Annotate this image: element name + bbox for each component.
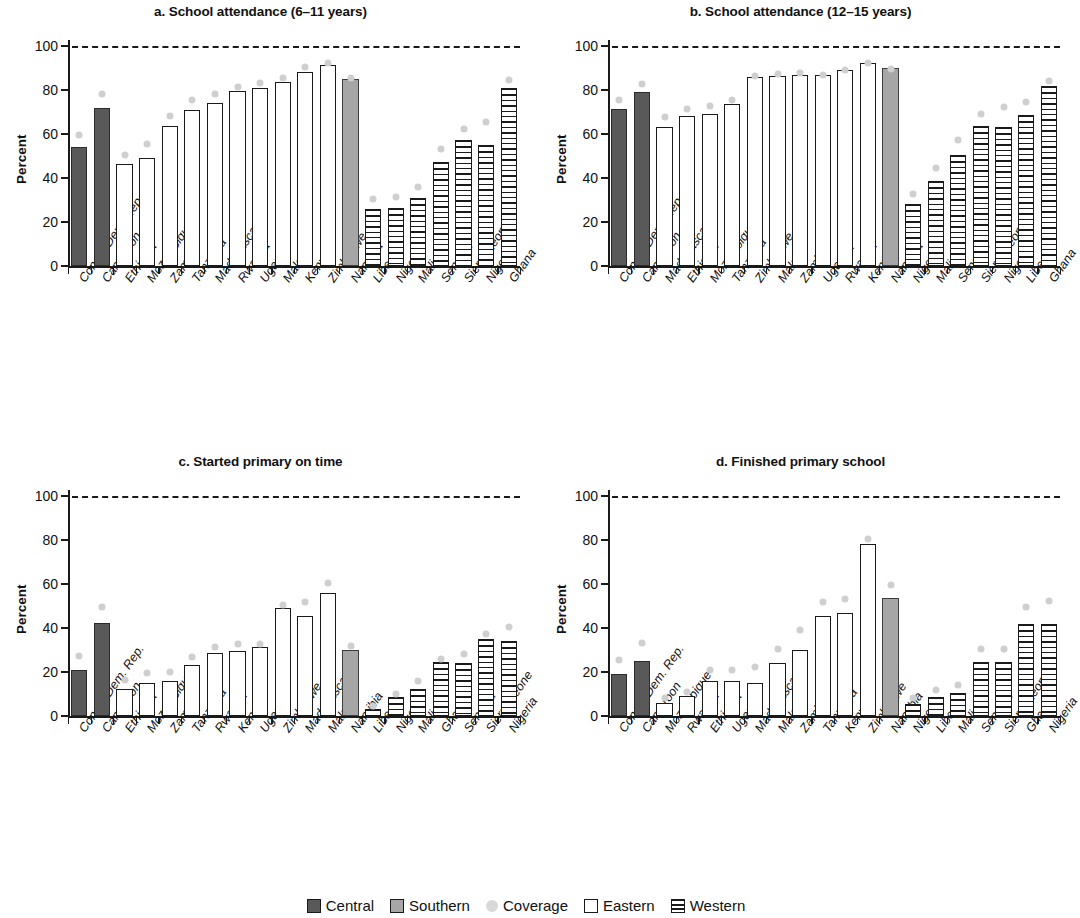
legend-item-eastern: Eastern bbox=[584, 897, 655, 914]
bar bbox=[162, 681, 178, 716]
x-axis-tick-mark bbox=[902, 267, 903, 274]
coverage-dot bbox=[955, 136, 962, 143]
bar bbox=[815, 75, 831, 266]
coverage-dot bbox=[415, 678, 422, 685]
y-axis-tick-label: 40 bbox=[564, 620, 598, 636]
x-axis-tick-mark bbox=[68, 717, 69, 724]
coverage-dot bbox=[189, 97, 196, 104]
bar bbox=[478, 145, 494, 266]
target-line-100 bbox=[72, 496, 520, 498]
y-axis-tick-label: 60 bbox=[24, 126, 58, 142]
bar bbox=[1041, 624, 1057, 716]
bar bbox=[94, 108, 110, 266]
x-axis-tick-mark bbox=[1060, 717, 1061, 724]
y-axis-tick-mark bbox=[61, 495, 68, 497]
y-axis-line bbox=[608, 490, 610, 716]
bar bbox=[252, 647, 268, 716]
coverage-dot bbox=[302, 64, 309, 71]
coverage-dot bbox=[1000, 103, 1007, 110]
coverage-dot bbox=[98, 90, 105, 97]
bar bbox=[860, 63, 876, 267]
legend-label: Coverage bbox=[503, 897, 568, 914]
x-axis-tick-mark bbox=[676, 717, 677, 724]
coverage-dot bbox=[483, 119, 490, 126]
coverage-dot bbox=[144, 670, 151, 677]
coverage-dot bbox=[76, 652, 83, 659]
x-axis-tick-mark bbox=[970, 717, 971, 724]
x-axis-tick-mark bbox=[766, 267, 767, 274]
legend-item-southern: Southern bbox=[390, 897, 470, 914]
bar bbox=[928, 181, 944, 266]
panel-b: b. School attendance (12–15 years)Percen… bbox=[540, 0, 1061, 450]
x-axis-tick-mark bbox=[520, 267, 521, 274]
coverage-dot bbox=[842, 595, 849, 602]
x-axis-tick-mark bbox=[1015, 717, 1016, 724]
x-axis-tick-mark bbox=[384, 267, 385, 274]
coverage-dot bbox=[774, 646, 781, 653]
coverage-dot bbox=[437, 145, 444, 152]
y-axis-tick-mark bbox=[61, 583, 68, 585]
coverage-dot bbox=[684, 105, 691, 112]
coverage-dot bbox=[977, 111, 984, 118]
y-axis-tick-mark bbox=[61, 627, 68, 629]
y-axis-tick-mark bbox=[601, 627, 608, 629]
legend-label: Western bbox=[690, 897, 746, 914]
y-axis-tick-label: 0 bbox=[564, 708, 598, 724]
coverage-dot bbox=[415, 184, 422, 191]
coverage-dot bbox=[166, 669, 173, 676]
coverage-dot bbox=[257, 79, 264, 86]
bar bbox=[71, 147, 87, 266]
x-axis-tick-mark bbox=[249, 267, 250, 274]
bar bbox=[207, 103, 223, 266]
x-axis-tick-mark bbox=[879, 267, 880, 274]
x-axis-tick-mark bbox=[362, 267, 363, 274]
legend-item-central: Central bbox=[307, 897, 374, 914]
bar bbox=[320, 593, 336, 716]
y-axis-tick-label: 80 bbox=[24, 82, 58, 98]
bar bbox=[747, 683, 763, 716]
bar bbox=[229, 91, 245, 266]
panel-title: a. School attendance (6–11 years) bbox=[0, 4, 521, 19]
x-axis-tick-mark bbox=[113, 717, 114, 724]
x-axis-tick-mark bbox=[68, 267, 69, 274]
coverage-dot bbox=[1023, 99, 1030, 106]
bar bbox=[679, 116, 695, 266]
x-axis-tick-mark bbox=[811, 717, 812, 724]
x-axis-tick-mark bbox=[497, 267, 498, 274]
x-axis-tick-mark bbox=[947, 267, 948, 274]
x-axis-tick-mark bbox=[204, 267, 205, 274]
bar bbox=[1041, 86, 1057, 266]
bar bbox=[1018, 624, 1034, 716]
x-axis-tick-mark bbox=[430, 267, 431, 274]
x-axis-tick-mark bbox=[1060, 267, 1061, 274]
bar bbox=[433, 162, 449, 267]
y-axis-tick-label: 60 bbox=[564, 126, 598, 142]
y-axis-tick-label: 20 bbox=[564, 214, 598, 230]
coverage-dot bbox=[279, 75, 286, 82]
y-axis-tick-label: 60 bbox=[24, 576, 58, 592]
coverage-dot bbox=[121, 152, 128, 159]
bar bbox=[365, 209, 381, 266]
bar bbox=[229, 651, 245, 716]
bar bbox=[950, 155, 966, 266]
coverage-dot bbox=[460, 125, 467, 132]
bar bbox=[116, 689, 132, 717]
bar bbox=[410, 198, 426, 266]
coverage-dot bbox=[505, 624, 512, 631]
bar bbox=[837, 613, 853, 716]
panel-c: c. Started primary on timePercent0204060… bbox=[0, 450, 521, 900]
coverage-dot bbox=[887, 66, 894, 73]
x-axis-tick-mark bbox=[789, 717, 790, 724]
bar bbox=[478, 639, 494, 716]
bar bbox=[769, 663, 785, 716]
coverage-dot bbox=[392, 193, 399, 200]
bar bbox=[501, 88, 517, 266]
x-axis-tick-mark bbox=[158, 717, 159, 724]
coverage-dot bbox=[977, 646, 984, 653]
bar bbox=[297, 616, 313, 716]
coverage-dot bbox=[76, 132, 83, 139]
coverage-dot bbox=[302, 598, 309, 605]
x-axis-tick-mark bbox=[475, 267, 476, 274]
bar bbox=[792, 650, 808, 716]
